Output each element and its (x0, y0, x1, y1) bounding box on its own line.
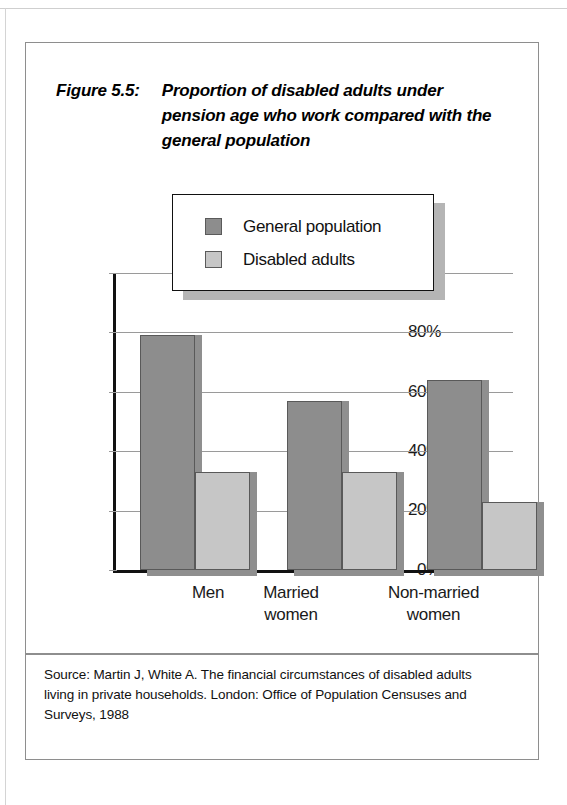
figure-page: Figure 5.5: Proportion of disabled adult… (0, 0, 567, 805)
source-note: Source: Martin J, White A. The financial… (44, 665, 504, 725)
page-edge-top (0, 8, 567, 9)
page-title: Proportion of disabled adults under pens… (162, 78, 506, 153)
figure-title-block: Figure 5.5: Proportion of disabled adult… (56, 78, 506, 153)
page-edge-left (5, 8, 6, 805)
figure-number: Figure 5.5: (56, 78, 140, 103)
source-divider (26, 653, 538, 655)
